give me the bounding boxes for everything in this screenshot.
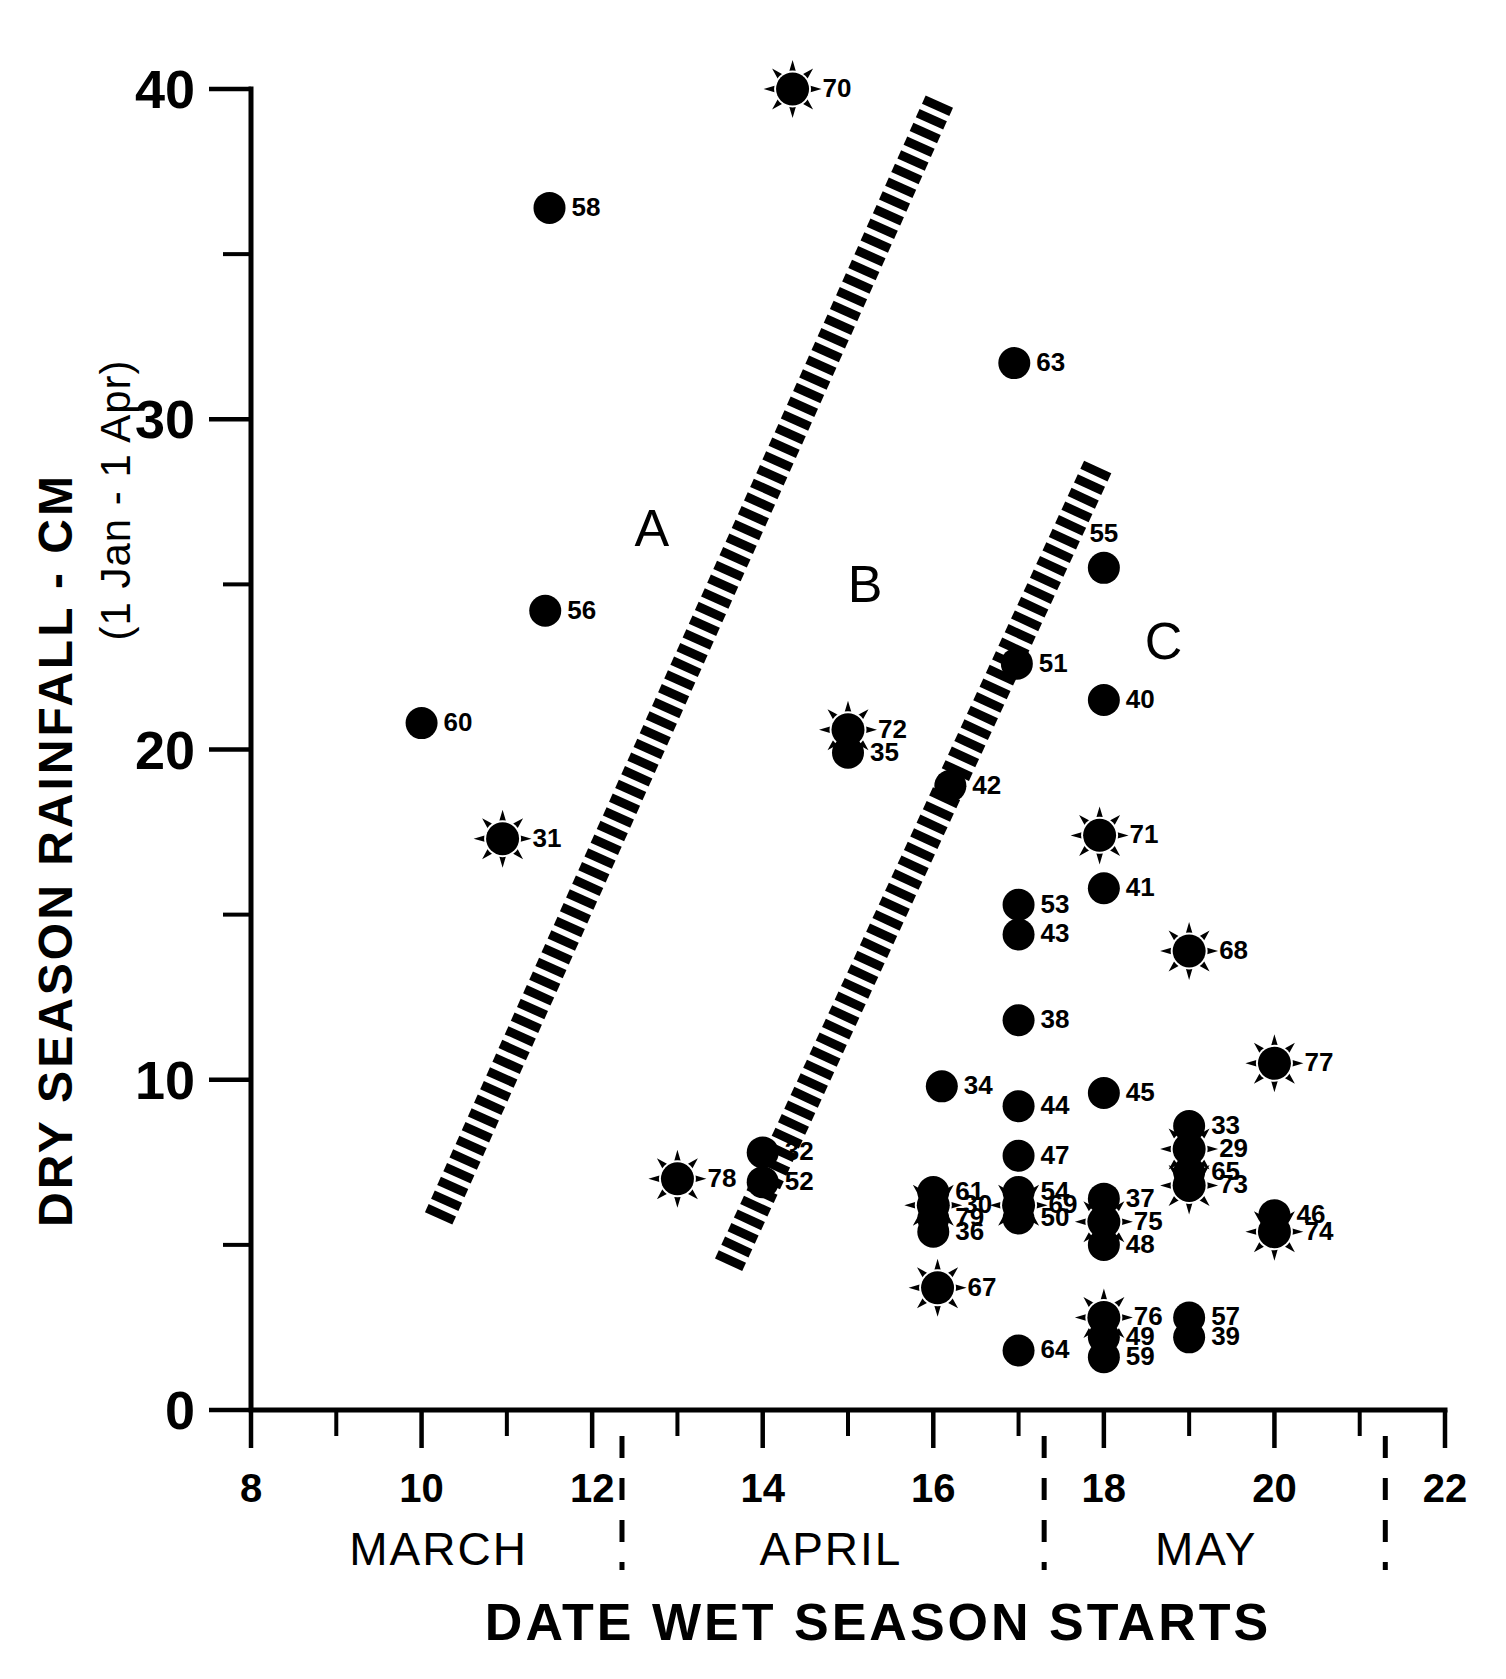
x-tick-label: 20 xyxy=(1252,1466,1297,1510)
data-point[interactable]: 59 xyxy=(1088,1341,1155,1373)
data-point[interactable]: 31 xyxy=(474,810,562,868)
data-point[interactable]: 71 xyxy=(1071,806,1159,864)
marker-dot xyxy=(1001,648,1033,680)
x-tick-label: 16 xyxy=(911,1466,956,1510)
data-point[interactable]: 51 xyxy=(1001,648,1068,680)
marker-dot xyxy=(917,1216,949,1248)
marker-dot xyxy=(926,1070,958,1102)
data-point[interactable]: 44 xyxy=(1003,1090,1070,1122)
marker-dot xyxy=(1088,1077,1120,1109)
marker-core xyxy=(486,822,519,855)
marker-dot xyxy=(934,770,966,802)
point-label: 63 xyxy=(1036,347,1065,377)
point-label: 78 xyxy=(707,1163,736,1193)
data-point[interactable]: 47 xyxy=(1003,1140,1070,1172)
data-point[interactable]: 38 xyxy=(1003,1004,1070,1036)
point-label: 55 xyxy=(1089,518,1118,548)
marker-dot xyxy=(1173,1156,1205,1188)
point-label: 70 xyxy=(823,73,852,103)
point-label: 37 xyxy=(1126,1183,1155,1213)
marker-dot xyxy=(1173,1321,1205,1353)
point-label: 42 xyxy=(972,770,1001,800)
point-label: 52 xyxy=(785,1166,814,1196)
data-point[interactable]: 40 xyxy=(1088,684,1155,716)
x-tick-label: 22 xyxy=(1423,1466,1468,1510)
point-label: 64 xyxy=(1041,1334,1070,1364)
marker-dot xyxy=(1088,872,1120,904)
data-point[interactable]: 39 xyxy=(1173,1321,1240,1353)
point-label: 32 xyxy=(785,1136,814,1166)
point-label: 38 xyxy=(1041,1004,1070,1034)
x-tick-label: 18 xyxy=(1082,1466,1127,1510)
data-point[interactable]: 56 xyxy=(529,595,596,627)
marker-dot xyxy=(1003,1004,1035,1036)
point-label: 77 xyxy=(1304,1047,1333,1077)
scatter-plot: 010203040 ABC 70727131687729737830697574… xyxy=(0,0,1506,1679)
data-point[interactable]: 60 xyxy=(406,707,473,739)
marker-core xyxy=(1173,934,1206,967)
marker-core xyxy=(921,1271,954,1304)
data-point[interactable]: 33 xyxy=(1173,1110,1240,1142)
marker-dot xyxy=(998,347,1030,379)
marker-dot xyxy=(1003,889,1035,921)
data-point[interactable]: 37 xyxy=(1088,1183,1155,1215)
data-point[interactable]: 35 xyxy=(832,737,899,769)
point-label: 40 xyxy=(1126,684,1155,714)
point-label: 51 xyxy=(1039,648,1068,678)
data-point[interactable]: 58 xyxy=(534,192,601,224)
point-label: 65 xyxy=(1211,1156,1240,1186)
point-label: 53 xyxy=(1041,889,1070,919)
marker-dot xyxy=(534,192,566,224)
marker-core xyxy=(661,1162,694,1195)
data-point[interactable]: 68 xyxy=(1160,922,1248,980)
marker-dot xyxy=(529,595,561,627)
data-point[interactable]: 43 xyxy=(1003,918,1070,950)
point-label: 39 xyxy=(1211,1321,1240,1351)
point-label: 33 xyxy=(1211,1110,1240,1140)
data-point[interactable]: 53 xyxy=(1003,889,1070,921)
point-label: 59 xyxy=(1126,1341,1155,1371)
marker-dot xyxy=(406,707,438,739)
data-point[interactable]: 55 xyxy=(1088,518,1120,584)
data-point[interactable]: 64 xyxy=(1003,1334,1070,1366)
zone-label-b: B xyxy=(848,555,883,613)
y-axis-title: DRY SEASON RAINFALL - CM xyxy=(29,473,82,1227)
axes: 010203040 xyxy=(135,59,1445,1448)
data-point[interactable]: 48 xyxy=(1088,1229,1155,1261)
y-tick-label: 20 xyxy=(135,720,195,780)
y-tick-label: 40 xyxy=(135,59,195,119)
marker-dot xyxy=(1003,1202,1035,1234)
marker-dot xyxy=(747,1136,779,1168)
point-label: 41 xyxy=(1126,872,1155,902)
point-label: 35 xyxy=(870,737,899,767)
marker-dot xyxy=(747,1166,779,1198)
point-label: 68 xyxy=(1219,935,1248,965)
marker-dot xyxy=(1003,1335,1035,1367)
data-point[interactable]: 45 xyxy=(1088,1077,1155,1109)
point-label: 31 xyxy=(533,823,562,853)
marker-dot xyxy=(1088,1341,1120,1373)
marker-dot xyxy=(1088,684,1120,716)
point-label: 46 xyxy=(1296,1199,1325,1229)
point-label: 34 xyxy=(964,1070,993,1100)
marker-dot xyxy=(1258,1199,1290,1231)
y-tick-label: 0 xyxy=(165,1380,195,1440)
x-axis-tick-labels: 810121416182022 xyxy=(240,1466,1467,1510)
data-point[interactable]: 41 xyxy=(1088,872,1155,904)
zone-label-a: A xyxy=(634,499,669,557)
data-point[interactable]: 78 xyxy=(648,1150,736,1208)
marker-dot xyxy=(1003,1140,1035,1172)
data-point[interactable]: 77 xyxy=(1245,1034,1333,1092)
data-point[interactable]: 34 xyxy=(926,1070,993,1102)
x-tick-label: 14 xyxy=(740,1466,785,1510)
data-point[interactable]: 67 xyxy=(909,1259,997,1317)
data-point[interactable]: 70 xyxy=(764,60,852,118)
point-label: 45 xyxy=(1126,1077,1155,1107)
marker-dot xyxy=(1173,1110,1205,1142)
point-label: 58 xyxy=(572,192,601,222)
point-label: 48 xyxy=(1126,1229,1155,1259)
data-point[interactable]: 63 xyxy=(998,347,1065,379)
marker-dot xyxy=(1003,918,1035,950)
x-tick-label: 8 xyxy=(240,1466,262,1510)
point-label: 67 xyxy=(968,1272,997,1302)
